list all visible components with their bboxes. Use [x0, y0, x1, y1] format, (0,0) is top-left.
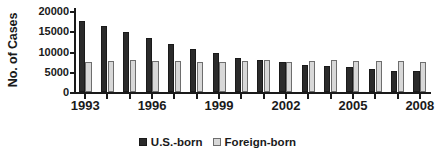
bar-group	[297, 11, 319, 92]
y-tick-label: 10000	[38, 46, 69, 57]
bar-us-born	[302, 65, 308, 92]
chart-legend: U.S.-bornForeign-born	[0, 136, 435, 148]
bar-foreign-born	[175, 61, 181, 92]
y-tick-label: 0	[63, 87, 69, 98]
y-axis-tick-labels: 05000100001500020000	[24, 0, 72, 100]
bars-layer	[74, 11, 431, 92]
bar-group	[364, 11, 386, 92]
bar-us-born	[413, 71, 419, 92]
bar-us-born	[79, 21, 85, 92]
bar-foreign-born	[130, 60, 136, 92]
bar-group	[163, 11, 185, 92]
bar-us-born	[391, 71, 397, 92]
bar-us-born	[168, 44, 174, 92]
bar-foreign-born	[85, 62, 91, 92]
bar-us-born	[190, 49, 196, 92]
bar-group	[230, 11, 252, 92]
bar-foreign-born	[108, 61, 114, 92]
bar-foreign-born	[286, 62, 292, 92]
bar-group	[208, 11, 230, 92]
bar-us-born	[324, 66, 330, 92]
plot-area	[74, 11, 431, 92]
bar-group	[342, 11, 364, 92]
bar-us-born	[369, 69, 375, 92]
x-tick-label: 2008	[405, 99, 434, 112]
bar-us-born	[257, 60, 263, 92]
bar-group	[409, 11, 431, 92]
bar-group	[141, 11, 163, 92]
bar-foreign-born	[309, 61, 315, 92]
bar-us-born	[279, 62, 285, 92]
bar-group	[96, 11, 118, 92]
x-tick-label: 1996	[138, 99, 167, 112]
light-square-icon	[213, 138, 221, 146]
legend-item-label: U.S.-born	[151, 136, 203, 148]
y-axis-title: No. of Cases	[0, 0, 26, 100]
bar-us-born	[213, 53, 219, 92]
bar-us-born	[123, 32, 129, 92]
bar-group	[319, 11, 341, 92]
bar-us-born	[101, 26, 107, 92]
y-tick-label: 5000	[45, 66, 69, 77]
bar-foreign-born	[376, 61, 382, 92]
x-tick-label: 2005	[338, 99, 367, 112]
bar-group	[253, 11, 275, 92]
dark-square-icon	[139, 138, 147, 146]
bar-group	[386, 11, 408, 92]
bar-chart: No. of Cases 05000100001500020000 199319…	[0, 0, 435, 158]
bar-foreign-born	[331, 60, 337, 92]
y-tick-mark	[70, 92, 75, 94]
bar-foreign-born	[242, 61, 248, 92]
bar-group	[119, 11, 141, 92]
legend-item-label: Foreign-born	[225, 136, 297, 148]
x-tick-label: 1999	[205, 99, 234, 112]
bar-foreign-born	[219, 62, 225, 92]
y-tick-label: 20000	[38, 6, 69, 17]
bar-group	[275, 11, 297, 92]
bar-group	[74, 11, 96, 92]
legend-item: U.S.-born	[139, 136, 203, 148]
x-tick-label: 1993	[71, 99, 100, 112]
bar-foreign-born	[197, 62, 203, 92]
y-tick-label: 15000	[38, 26, 69, 37]
x-tick-label: 2002	[272, 99, 301, 112]
bar-foreign-born	[152, 61, 158, 92]
bar-us-born	[146, 38, 152, 92]
bar-foreign-born	[420, 62, 426, 92]
x-axis-tick-labels: 199319961999200220052008	[74, 99, 431, 119]
y-axis-title-label: No. of Cases	[6, 13, 20, 88]
bar-us-born	[235, 58, 241, 92]
bar-us-born	[346, 67, 352, 92]
bar-foreign-born	[264, 60, 270, 92]
bar-group	[186, 11, 208, 92]
bar-foreign-born	[398, 61, 404, 92]
legend-item: Foreign-born	[213, 136, 297, 148]
bar-foreign-born	[353, 61, 359, 92]
x-axis-line	[74, 92, 431, 94]
